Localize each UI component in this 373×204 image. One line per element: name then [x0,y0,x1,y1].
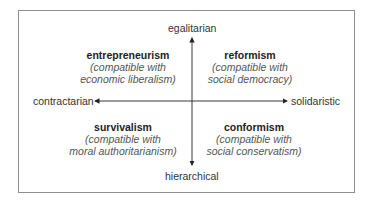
quadrant-bottom-left: survivalism (compatible with moral autho… [69,121,176,157]
quadrant-subtitle-line2: economic liberalism) [80,73,176,85]
axis-label-bottom: hierarchical [165,170,219,182]
axis-label-left: contractarian [33,95,94,107]
quadrant-subtitle-line1: (compatible with [206,133,301,145]
quadrant-subtitle-line1: (compatible with [69,133,176,145]
quadrant-title: reformism [208,49,293,61]
quadrant-top-right: reformism (compatible with social democr… [208,49,293,85]
quadrant-subtitle-line2: social conservatism) [206,145,301,157]
quadrant-subtitle-line1: (compatible with [208,61,293,73]
quadrant-subtitle-line1: (compatible with [80,61,176,73]
quadrant-title: survivalism [69,121,176,133]
quadrant-title: entrepreneurism [80,49,176,61]
quadrant-subtitle-line2: social democracy) [208,73,293,85]
axis-label-right: solidaristic [291,95,340,107]
quadrant-bottom-right: conformism (compatible with social conse… [206,121,301,157]
quadrant-top-left: entrepreneurism (compatible with economi… [80,49,176,85]
quadrant-subtitle-line2: moral authoritarianism) [69,145,176,157]
quadrant-title: conformism [206,121,301,133]
axis-label-top: egalitarian [168,22,216,34]
